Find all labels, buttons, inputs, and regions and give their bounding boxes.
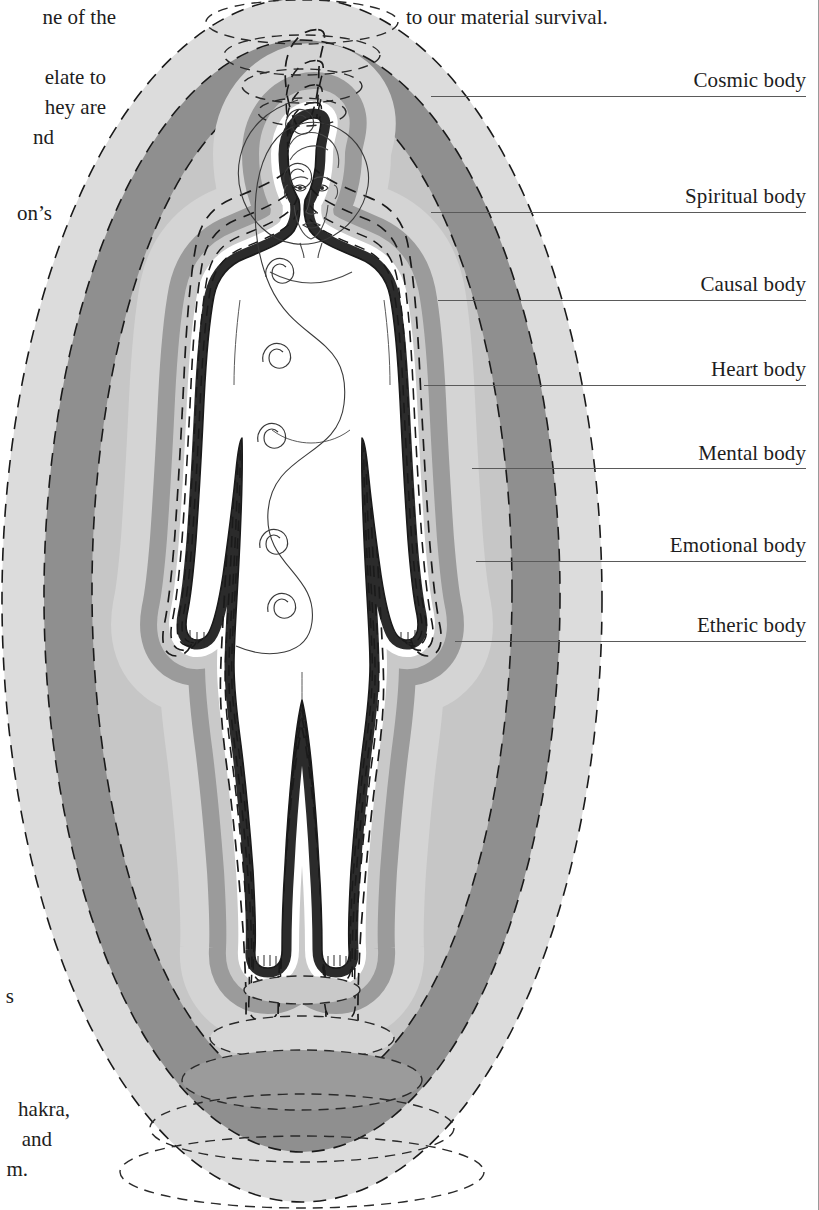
body-text-top: to our material survival. — [406, 2, 608, 32]
leader-line-causal-body — [438, 300, 806, 301]
body-text-left-1: ne of the — [0, 2, 116, 32]
label-spiritual-body: Spiritual body — [685, 184, 806, 208]
body-text-left-2: elate to — [0, 62, 106, 92]
leader-line-emotional-body — [476, 561, 806, 562]
body-text-left-5: on’s — [0, 198, 52, 228]
label-cosmic-body: Cosmic body — [693, 68, 806, 92]
label-causal-body: Causal body — [700, 272, 806, 296]
label-mental-body: Mental body — [698, 441, 806, 465]
body-text-left-4: nd — [0, 122, 54, 152]
leader-line-mental-body — [472, 468, 806, 469]
label-emotional-body: Emotional body — [670, 533, 806, 557]
body-text-left-6: s — [0, 981, 14, 1011]
leader-line-spiritual-body — [431, 212, 806, 213]
body-text-left-9: m. — [0, 1154, 28, 1184]
leader-line-cosmic-body — [431, 96, 806, 97]
leader-line-etheric-body — [455, 641, 806, 642]
body-text-left-8: and — [0, 1124, 52, 1154]
label-etheric-body: Etheric body — [697, 613, 806, 637]
body-text-left-3: hey are — [0, 92, 106, 122]
diagram-page: to our material survival. ne of the elat… — [0, 0, 819, 1210]
aura-figure — [0, 0, 819, 1210]
label-heart-body: Heart body — [711, 357, 806, 381]
leader-line-heart-body — [424, 385, 806, 386]
body-text-left-7: hakra, — [0, 1094, 70, 1124]
